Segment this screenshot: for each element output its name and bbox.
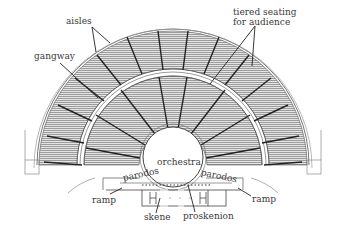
skene-building (106, 190, 241, 206)
label-ramp-left: ramp (92, 196, 116, 205)
label-orchestra: orchestra (157, 158, 201, 167)
label-skene: skene (144, 213, 171, 222)
label-ramp-right: ramp (252, 195, 276, 204)
label-tiered-seating-line2: for audience (233, 18, 290, 27)
label-tiered-seating-line1: tiered seating (233, 8, 296, 17)
label-proskenion: proskenion (183, 212, 234, 221)
label-aisles: aisles (66, 17, 92, 26)
theatre-plan-diagram: aisles gangway tiered seating for audien… (0, 0, 346, 233)
label-gangway: gangway (34, 52, 75, 61)
theatre-plan-drawing (0, 0, 346, 233)
